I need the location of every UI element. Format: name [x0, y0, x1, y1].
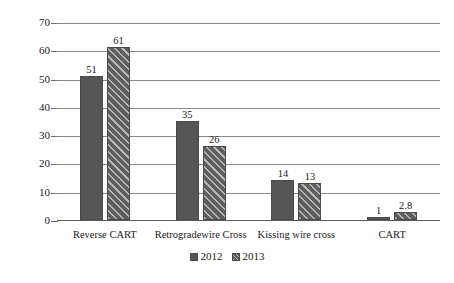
x-axis-line — [57, 220, 440, 221]
bar-2013-0: 61 — [107, 47, 130, 220]
y-tick-label: 60 — [24, 45, 50, 56]
legend-label: 2013 — [243, 251, 265, 262]
y-tick-label: 10 — [24, 187, 50, 198]
y-tick-label: 50 — [24, 74, 50, 85]
legend-label: 2012 — [201, 251, 223, 262]
bar-value-label: 2.8 — [399, 200, 412, 211]
y-tick-mark — [51, 221, 58, 222]
category-label-2: Kissing wire cross — [258, 228, 336, 241]
y-tick-label: 0 — [24, 215, 50, 226]
bar-value-label: 14 — [278, 168, 289, 179]
y-axis-ticks: 010203040506070 — [24, 0, 50, 283]
bar-2013-1: 26 — [203, 146, 226, 220]
category-label-0: Reverse CART — [73, 228, 137, 241]
bar-value-label: 1 — [376, 205, 381, 216]
legend-swatch-icon — [232, 253, 240, 261]
bar-2012-1: 35 — [176, 121, 199, 220]
plot-area: 51613526141312.8 — [57, 23, 440, 221]
category-label-3: CART — [378, 228, 405, 241]
bar-value-label: 13 — [305, 171, 316, 182]
y-tick-label: 20 — [24, 158, 50, 169]
x-axis-category-labels: Reverse CARTRetrogradewire CrossKissing … — [57, 228, 440, 244]
bar-2013-3: 2.8 — [394, 212, 417, 220]
bar-value-label: 51 — [86, 64, 97, 75]
y-tick-label: 70 — [24, 17, 50, 28]
bar-2012-0: 51 — [80, 76, 103, 220]
category-label-1: Retrogradewire Cross — [155, 228, 247, 241]
bar-value-label: 26 — [209, 134, 220, 145]
bar-2012-3: 1 — [367, 217, 390, 220]
bar-value-label: 35 — [182, 109, 193, 120]
bar-2013-2: 13 — [298, 183, 321, 220]
y-tick-label: 40 — [24, 102, 50, 113]
y-tick-label: 30 — [24, 130, 50, 141]
chart-legend: 20122013 — [0, 251, 454, 262]
gridline — [57, 23, 440, 24]
bar-value-label: 61 — [113, 35, 124, 46]
legend-item-2013[interactable]: 2013 — [232, 251, 265, 262]
legend-item-2012[interactable]: 2012 — [190, 251, 223, 262]
bar-chart: 成功率（%） 010203040506070 51613526141312.8 … — [0, 0, 454, 283]
bar-2012-2: 14 — [271, 180, 294, 220]
legend-swatch-icon — [190, 253, 198, 261]
